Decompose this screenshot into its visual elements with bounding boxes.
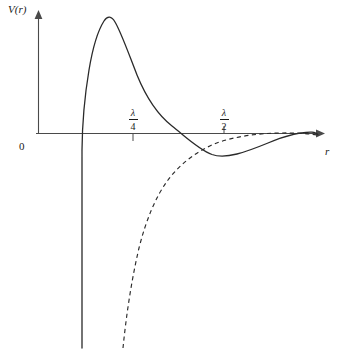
lambda-over-4-fraction-bar <box>129 119 138 120</box>
y-axis-arrowhead <box>35 10 43 19</box>
potential-energy-figure: V(r) r 0 λ 4 λ 2 <box>0 0 341 351</box>
x-tick-label-lambda-over-2: λ 2 <box>213 107 235 132</box>
lambda-over-4-denominator: 4 <box>122 121 144 132</box>
coulomb-attraction-dashed-curve <box>123 133 318 348</box>
lambda-over-4-numerator: λ <box>122 107 144 118</box>
lambda-over-2-fraction-bar <box>220 119 229 120</box>
lambda-over-2-numerator: λ <box>213 107 235 118</box>
x-axis-label: r <box>325 146 329 157</box>
origin-label: 0 <box>19 141 25 152</box>
y-axis-label: V(r) <box>8 4 26 15</box>
x-tick-label-lambda-over-4: λ 4 <box>122 107 144 132</box>
y-axis <box>35 10 43 134</box>
plot-canvas <box>0 0 341 351</box>
effective-potential-solid-curve <box>82 17 318 348</box>
lambda-over-2-denominator: 2 <box>213 121 235 132</box>
